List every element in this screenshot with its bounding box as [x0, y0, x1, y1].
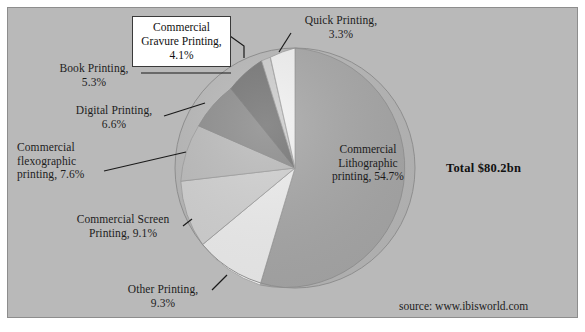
slice-label-other-printing: Other Printing, 9.3% [111, 283, 215, 310]
slice-label-book-printing: Book Printing, 5.3% [44, 62, 144, 89]
slice-label-digital-printing: Digital Printing, 6.6% [60, 104, 168, 131]
slice-label-quick-printing: Quick Printing, 3.3% [281, 14, 401, 41]
source-attribution: source: www.ibisworld.com [399, 300, 528, 312]
total-value-label: Total $80.2bn [446, 161, 521, 176]
slice-label-commercial-lithographic-printing: Commercial Lithographic printing, 54.7% [310, 143, 426, 184]
slice-label-commercial-flexographic-printing: Commercial flexographic printing, 7.6% [17, 141, 117, 182]
slice-label-commercial-screen-printing: Commercial Screen Printing, 9.1% [60, 213, 186, 240]
slice-label-commercial-gravure-printing: Commercial Gravure Printing, 4.1% [132, 16, 231, 67]
pie-chart-figure: Quick Printing, 3.3% Commercial Gravure … [0, 0, 585, 332]
